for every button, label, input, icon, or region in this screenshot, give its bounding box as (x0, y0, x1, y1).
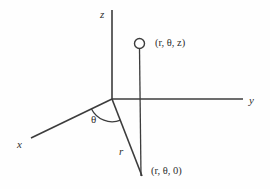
y-axis-label: y (249, 95, 254, 106)
z-axis-label: z (100, 9, 104, 20)
x-axis-label: x (17, 139, 22, 150)
radius-label: r (119, 146, 123, 157)
radius-ray-line (112, 99, 142, 176)
point-space-coordinate-label: (r, θ, z) (155, 38, 185, 49)
point-marker-icon (135, 39, 145, 49)
point-plane-coordinate-label: (r, θ, 0) (151, 166, 182, 177)
vertical-drop-line (140, 49, 142, 176)
cylindrical-coordinates-figure: z y x θ r (r, θ, z) (r, θ, 0) (0, 0, 270, 189)
theta-angle-label: θ (91, 114, 96, 125)
figure-canvas (0, 0, 270, 189)
